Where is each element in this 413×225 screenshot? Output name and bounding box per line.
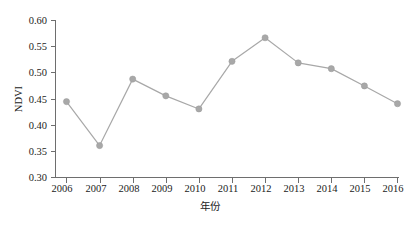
data-point [97,142,103,148]
data-point [361,83,367,89]
data-point [196,106,202,112]
y-tick-label: 0.50 [29,67,47,78]
x-tick-label: 2015 [350,183,371,194]
y-tick-label: 0.35 [29,146,47,157]
x-tick-label: 2008 [119,183,140,194]
data-point [130,76,136,82]
y-tick-label: 0.45 [29,94,47,105]
x-tick-label: 2012 [251,183,272,194]
data-point [394,101,400,107]
y-tick-label: 0.60 [29,15,47,26]
y-tick-label: 0.55 [29,41,47,52]
x-tick-label: 2007 [86,183,107,194]
x-tick-label: 2006 [52,183,73,194]
x-axis-tick-labels: 2006 2007 2008 2009 2010 2011 2012 2013 … [52,183,404,194]
data-point [229,58,235,64]
data-point [262,35,268,41]
x-tick-label: 2010 [185,183,206,194]
y-tick-label: 0.30 [29,172,47,183]
x-tick-label: 2009 [152,183,173,194]
data-point [163,93,169,99]
x-tick-label: 2014 [317,183,339,194]
x-tick-label: 2011 [218,183,239,194]
data-point [63,99,69,105]
x-tick-label: 2013 [284,183,305,194]
ndvi-line-chart: 0.30 0.35 0.40 0.45 0.50 0.55 0.60 2006 … [0,0,413,225]
y-tick-label: 0.40 [29,120,47,131]
y-axis-title: NDVI [13,85,24,112]
x-tick-label: 2016 [383,183,404,194]
data-point [295,60,301,66]
x-axis-title: 年份 [200,200,221,212]
data-point [328,66,334,72]
